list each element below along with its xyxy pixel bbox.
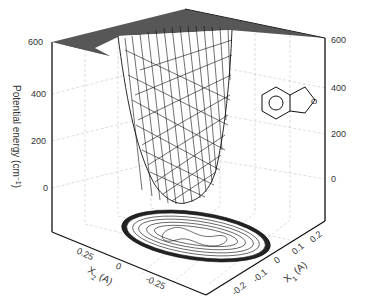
svg-text:200: 200 — [31, 136, 46, 146]
surface-plot: O 600 400 200 0 600 400 200 0 Potential … — [0, 0, 365, 308]
svg-text:200: 200 — [331, 129, 346, 139]
svg-text:0: 0 — [331, 174, 336, 184]
svg-text:400: 400 — [31, 89, 46, 99]
svg-text:0.2: 0.2 — [308, 229, 324, 245]
molecule-inset: O — [262, 87, 317, 119]
x2-axis-label: X2 (A) — [85, 264, 115, 289]
svg-text:0: 0 — [114, 261, 123, 272]
surface-mesh — [118, 26, 232, 204]
svg-text:400: 400 — [331, 83, 346, 93]
contour-projection — [118, 202, 273, 270]
z-ticks-left: 600 400 200 0 — [28, 37, 48, 193]
svg-text:-0.25: -0.25 — [144, 274, 167, 292]
svg-text:0: 0 — [272, 255, 282, 266]
z-axis-label: Potential energy (cm−1) — [11, 85, 23, 188]
svg-text:600: 600 — [331, 35, 346, 45]
z-ticks-right: 600 400 200 0 — [331, 35, 346, 184]
x1-axis-label: X1 (A) — [281, 259, 310, 286]
svg-text:-0.2: -0.2 — [230, 280, 248, 298]
svg-text:600: 600 — [28, 37, 43, 47]
svg-text:0.1: 0.1 — [290, 241, 306, 257]
svg-text:O: O — [311, 97, 317, 106]
svg-text:-0.1: -0.1 — [251, 267, 269, 285]
svg-text:0: 0 — [43, 183, 48, 193]
